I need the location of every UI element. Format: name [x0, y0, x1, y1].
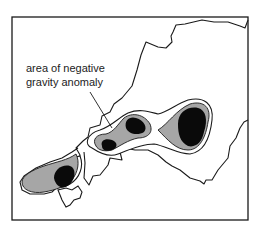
coastline-south-outcrop — [58, 186, 82, 207]
map-canvas — [0, 0, 258, 235]
annotation-line-2: gravity anomaly — [26, 76, 103, 89]
annotation-line-1: area of negative — [26, 62, 105, 75]
